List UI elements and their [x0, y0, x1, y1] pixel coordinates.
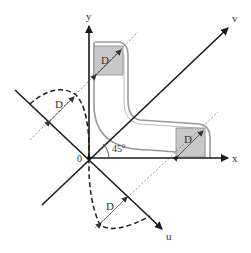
upper-left-profile-label: D: [55, 98, 63, 110]
v-axis: [42, 28, 228, 205]
lower-profile-label: D: [106, 200, 114, 212]
y-axis-label: y: [86, 10, 92, 22]
rotated-axes-diagram: y x v u 0 450 D D D D: [0, 0, 251, 253]
angle-unit: 0: [122, 143, 125, 149]
angle-label: 450: [112, 143, 125, 154]
right-square-label: D: [184, 133, 192, 145]
dotted-diagonal-top: [30, 32, 138, 140]
origin-label: 0: [77, 153, 82, 164]
angle-value: 45: [112, 143, 122, 154]
v-axis-label: v: [232, 12, 238, 24]
top-square-label: D: [101, 54, 109, 66]
u-axis-label: u: [166, 230, 172, 242]
x-axis-label: x: [232, 152, 238, 164]
